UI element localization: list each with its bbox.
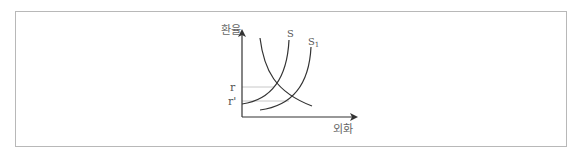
r-label: r xyxy=(230,81,236,94)
x-axis-label: 외화 xyxy=(333,123,353,136)
y-axis-label: 환율 xyxy=(221,24,241,37)
supply-curve-s xyxy=(242,40,289,104)
supply-s-label: S xyxy=(287,28,294,39)
r-prime-label: r' xyxy=(228,95,236,108)
demand-curve xyxy=(260,38,312,106)
supply-demand-diagram: 환율 외화 S S1 r r' xyxy=(0,0,579,157)
supply-s1-label: S1 xyxy=(308,36,319,49)
